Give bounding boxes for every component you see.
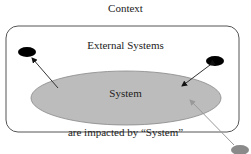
diagram-title: Context [0,2,251,14]
incoming-node [231,145,249,154]
footer-label: are impacted by “System” [0,126,251,138]
external-node-right [206,56,224,66]
container-label: External Systems [0,39,251,51]
system-label: System [0,87,251,99]
